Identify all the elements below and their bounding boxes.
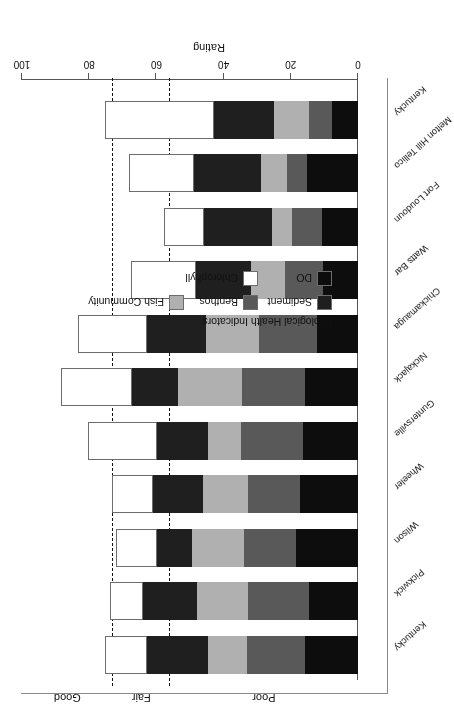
bar-segment-benthos[interactable] bbox=[247, 636, 305, 674]
bar-row[interactable] bbox=[0, 583, 418, 621]
bar-row[interactable] bbox=[0, 155, 418, 193]
legend-item-do[interactable]: DO bbox=[296, 271, 332, 286]
legend-swatch-icon bbox=[169, 295, 184, 310]
bar-segment-sediment[interactable] bbox=[194, 155, 261, 193]
bar-segment-do[interactable] bbox=[307, 155, 358, 193]
bar-segment-chlorophyll[interactable] bbox=[110, 583, 143, 621]
bar-segment-do[interactable] bbox=[305, 369, 358, 407]
bar-segment-benthos[interactable] bbox=[244, 529, 296, 567]
bar-segment-chlorophyll[interactable] bbox=[164, 208, 204, 246]
bar-segment-fish-community[interactable] bbox=[208, 422, 241, 460]
legend-item-fish-community[interactable]: Fish Community bbox=[88, 295, 184, 310]
bar-row[interactable] bbox=[0, 636, 418, 674]
bar-segment-fish-community[interactable] bbox=[272, 208, 292, 246]
zone-label-good: Good bbox=[37, 692, 97, 704]
legend-label: Chlorophyll bbox=[185, 273, 238, 285]
bar-segment-benthos[interactable] bbox=[287, 155, 307, 193]
bar-segment-do[interactable] bbox=[332, 101, 358, 139]
bar-row[interactable] bbox=[0, 529, 418, 567]
bar-segment-do[interactable] bbox=[305, 636, 358, 674]
axis-tick-label: 40 bbox=[209, 59, 239, 70]
bar-segment-benthos[interactable] bbox=[242, 369, 305, 407]
bar-segment-fish-community[interactable] bbox=[208, 636, 247, 674]
bar-segment-sediment[interactable] bbox=[204, 208, 272, 246]
legend-swatch-icon bbox=[243, 271, 258, 286]
axis-tick-label: 80 bbox=[74, 59, 104, 70]
bar-segment-do[interactable] bbox=[303, 422, 358, 460]
bar-segment-do[interactable] bbox=[322, 208, 358, 246]
bar-row[interactable] bbox=[0, 476, 418, 514]
bar-segment-sediment[interactable] bbox=[153, 476, 203, 514]
bar-segment-sediment[interactable] bbox=[214, 101, 274, 139]
zone-label-poor: Poor bbox=[234, 692, 294, 704]
bar-segment-fish-community[interactable] bbox=[192, 529, 244, 567]
bar-segment-sediment[interactable] bbox=[147, 636, 208, 674]
bar-segment-chlorophyll[interactable] bbox=[78, 315, 147, 353]
axis-tick bbox=[290, 73, 291, 79]
axis-tick bbox=[21, 73, 22, 79]
bar-row[interactable] bbox=[0, 208, 418, 246]
bar-segment-chlorophyll[interactable] bbox=[61, 369, 132, 407]
bar-segment-chlorophyll[interactable] bbox=[112, 476, 153, 514]
value-axis-line bbox=[21, 79, 358, 80]
legend-item-chlorophyll[interactable]: Chlorophyll bbox=[185, 271, 258, 286]
bar-segment-benthos[interactable] bbox=[292, 208, 322, 246]
bar-segment-do[interactable] bbox=[309, 583, 358, 621]
axis-tick bbox=[357, 73, 358, 79]
bar-segment-benthos[interactable] bbox=[248, 583, 309, 621]
legend-label: DO bbox=[296, 273, 312, 285]
axis-tick-label: 0 bbox=[343, 59, 373, 70]
legend-label: Fish Community bbox=[88, 297, 164, 309]
bar-row[interactable] bbox=[0, 369, 418, 407]
bar-segment-sediment[interactable] bbox=[143, 583, 197, 621]
bar-segment-chlorophyll[interactable] bbox=[116, 529, 157, 567]
bar-row[interactable] bbox=[0, 422, 418, 460]
legend-item-benthos[interactable]: Benthos bbox=[199, 295, 258, 310]
legend-swatch-icon bbox=[243, 295, 258, 310]
legend-item-sediment[interactable]: Sediment bbox=[268, 295, 332, 310]
bar-segment-fish-community[interactable] bbox=[178, 369, 242, 407]
legend-swatch-icon bbox=[317, 295, 332, 310]
bar-segment-fish-community[interactable] bbox=[261, 155, 287, 193]
bar-segment-benthos[interactable] bbox=[241, 422, 303, 460]
bar-row[interactable] bbox=[0, 101, 418, 139]
axis-tick bbox=[223, 73, 224, 79]
axis-tick bbox=[88, 73, 89, 79]
bar-segment-chlorophyll[interactable] bbox=[88, 422, 157, 460]
bar-segment-sediment[interactable] bbox=[157, 422, 208, 460]
bar-segment-chlorophyll[interactable] bbox=[105, 636, 147, 674]
axis-tick-label: 60 bbox=[141, 59, 171, 70]
bar-segment-benthos[interactable] bbox=[248, 476, 300, 514]
bar-segment-chlorophyll[interactable] bbox=[105, 101, 214, 139]
bar-segment-do[interactable] bbox=[300, 476, 358, 514]
value-axis-title: Rating bbox=[0, 42, 418, 54]
axis-tick bbox=[155, 73, 156, 79]
bar-segment-chlorophyll[interactable] bbox=[129, 155, 194, 193]
bar-segment-fish-community[interactable] bbox=[197, 583, 248, 621]
bar-segment-fish-community[interactable] bbox=[274, 101, 309, 139]
zone-label-fair: Fair bbox=[111, 692, 171, 704]
bar-segment-fish-community[interactable] bbox=[203, 476, 248, 514]
axis-tick-label: 20 bbox=[276, 59, 306, 70]
bar-segment-sediment[interactable] bbox=[132, 369, 178, 407]
legend-label: Sediment bbox=[268, 297, 312, 309]
legend-label: Benthos bbox=[199, 297, 238, 309]
bar-segment-sediment[interactable] bbox=[157, 529, 192, 567]
legend-swatch-icon bbox=[317, 271, 332, 286]
bar-segment-benthos[interactable] bbox=[309, 101, 332, 139]
axis-tick-label: 100 bbox=[7, 59, 37, 70]
bar-segment-do[interactable] bbox=[296, 529, 358, 567]
bar-segment-sediment[interactable] bbox=[147, 315, 206, 353]
legend-title: Ecological Health Indicators bbox=[202, 316, 332, 328]
